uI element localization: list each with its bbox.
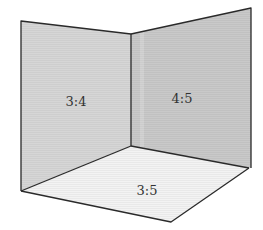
right-wall-panel: [131, 8, 251, 168]
corner-diagram: 3:4 4:5 3:5: [0, 0, 263, 230]
floor-ratio-label: 3:5: [137, 183, 158, 198]
left-wall-ratio-label: 3:4: [66, 94, 87, 109]
right-wall-ratio-label: 4:5: [172, 91, 193, 106]
